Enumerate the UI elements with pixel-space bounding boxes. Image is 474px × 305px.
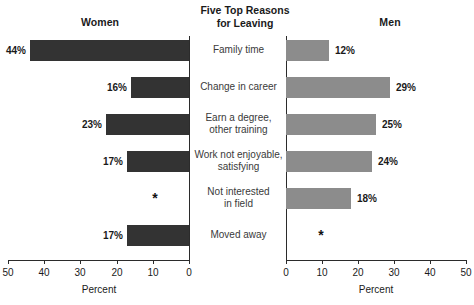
x-tick-men-40 — [430, 260, 431, 264]
category-label-line-1: Moved away — [182, 229, 295, 241]
category-label-line-2: in field — [182, 198, 295, 210]
x-tick-label-men-30: 30 — [381, 267, 407, 278]
x-tick-label-men-0: 0 — [273, 267, 299, 278]
x-tick-women-10 — [153, 260, 154, 264]
category-label-column: Family time Change in career Earn a degr… — [190, 36, 287, 260]
panel-heading-men: Men — [330, 16, 450, 28]
bar-value-men-earn-a-degree: 25% — [382, 114, 412, 135]
x-tick-label-women-0: 0 — [176, 267, 202, 278]
x-axis-caption-men: Percent — [286, 284, 466, 295]
category-label-moved-away: Moved away — [182, 229, 295, 241]
x-tick-men-10 — [322, 260, 323, 264]
bar-value-men-family-time: 12% — [335, 40, 365, 61]
bar-value-women-family-time: 44% — [0, 40, 26, 61]
panel-heading-women: Women — [40, 16, 160, 28]
bar-men-work-not-enjoyable — [286, 151, 372, 172]
bar-men-not-interested — [286, 188, 351, 209]
bar-value-men-not-interested: 18% — [357, 188, 387, 209]
category-label-family-time: Family time — [182, 44, 295, 56]
category-label-line-1: Earn a degree, — [182, 112, 295, 124]
bar-value-women-earn-a-degree: 23% — [76, 114, 102, 135]
bar-women-change-in-career — [131, 77, 189, 98]
bar-men-earn-a-degree — [286, 114, 376, 135]
bar-women-work-not-enjoyable — [127, 151, 189, 172]
x-tick-label-men-10: 10 — [309, 267, 335, 278]
bar-women-moved-away — [127, 225, 189, 246]
x-tick-men-20 — [358, 260, 359, 264]
bar-value-men-change-in-career: 29% — [396, 77, 426, 98]
y-axis-line-men — [286, 36, 287, 260]
x-axis-line-men — [286, 260, 466, 261]
category-label-line-2: other training — [182, 124, 295, 136]
category-label-change-in-career: Change in career — [182, 81, 295, 93]
bar-men-family-time — [286, 40, 329, 61]
category-label-line-1: Not interested — [182, 186, 295, 198]
bar-value-women-work-not-enjoyable: 17% — [97, 151, 123, 172]
x-tick-women-20 — [117, 260, 118, 264]
bar-women-earn-a-degree — [106, 114, 189, 135]
category-label-not-interested: Not interested in field — [182, 186, 295, 210]
x-tick-women-40 — [44, 260, 45, 264]
category-label-line-1: Change in career — [182, 81, 295, 93]
chart-root: Five Top Reasons for Leaving Women Men 5… — [0, 0, 474, 305]
bar-value-women-change-in-career: 16% — [101, 77, 127, 98]
x-tick-men-0 — [286, 260, 287, 264]
category-label-line-1: Work not enjoyable, — [182, 149, 295, 161]
category-label-work-not-enjoyable: Work not enjoyable, satisfying — [182, 149, 295, 173]
bar-value-women-not-interested-suppressed: * — [147, 188, 163, 209]
bar-value-men-work-not-enjoyable: 24% — [378, 151, 408, 172]
chart-title-line-1: Five Top Reasons — [182, 4, 308, 17]
x-tick-label-women-50: 50 — [0, 267, 21, 278]
plot-area-women: 50 40 30 20 10 0 44% 16% 23% 17% * 17% — [8, 36, 190, 260]
chart-title: Five Top Reasons for Leaving — [182, 4, 308, 30]
category-label-earn-a-degree: Earn a degree, other training — [182, 112, 295, 136]
x-tick-label-men-50: 50 — [453, 267, 474, 278]
x-axis-caption-women: Percent — [8, 284, 190, 295]
bar-men-change-in-career — [286, 77, 390, 98]
x-tick-men-50 — [466, 260, 467, 264]
x-tick-women-0 — [189, 260, 190, 264]
chart-title-line-2: for Leaving — [182, 17, 308, 30]
x-tick-label-women-40: 40 — [31, 267, 57, 278]
category-label-line-1: Family time — [182, 44, 295, 56]
x-tick-label-women-10: 10 — [140, 267, 166, 278]
bar-women-family-time — [30, 40, 189, 61]
x-tick-women-50 — [8, 260, 9, 264]
x-tick-label-men-20: 20 — [345, 267, 371, 278]
bar-value-women-moved-away: 17% — [97, 225, 123, 246]
x-tick-label-women-30: 30 — [67, 267, 93, 278]
bar-value-men-moved-away-suppressed: * — [313, 225, 329, 246]
x-tick-women-30 — [80, 260, 81, 264]
x-axis-line-women — [8, 260, 190, 261]
x-tick-label-women-20: 20 — [104, 267, 130, 278]
x-tick-men-30 — [394, 260, 395, 264]
category-label-line-2: satisfying — [182, 161, 295, 173]
plot-area-men: 0 10 20 30 40 50 12% 29% 25% 24% 18% * — [286, 36, 466, 260]
x-tick-label-men-40: 40 — [417, 267, 443, 278]
